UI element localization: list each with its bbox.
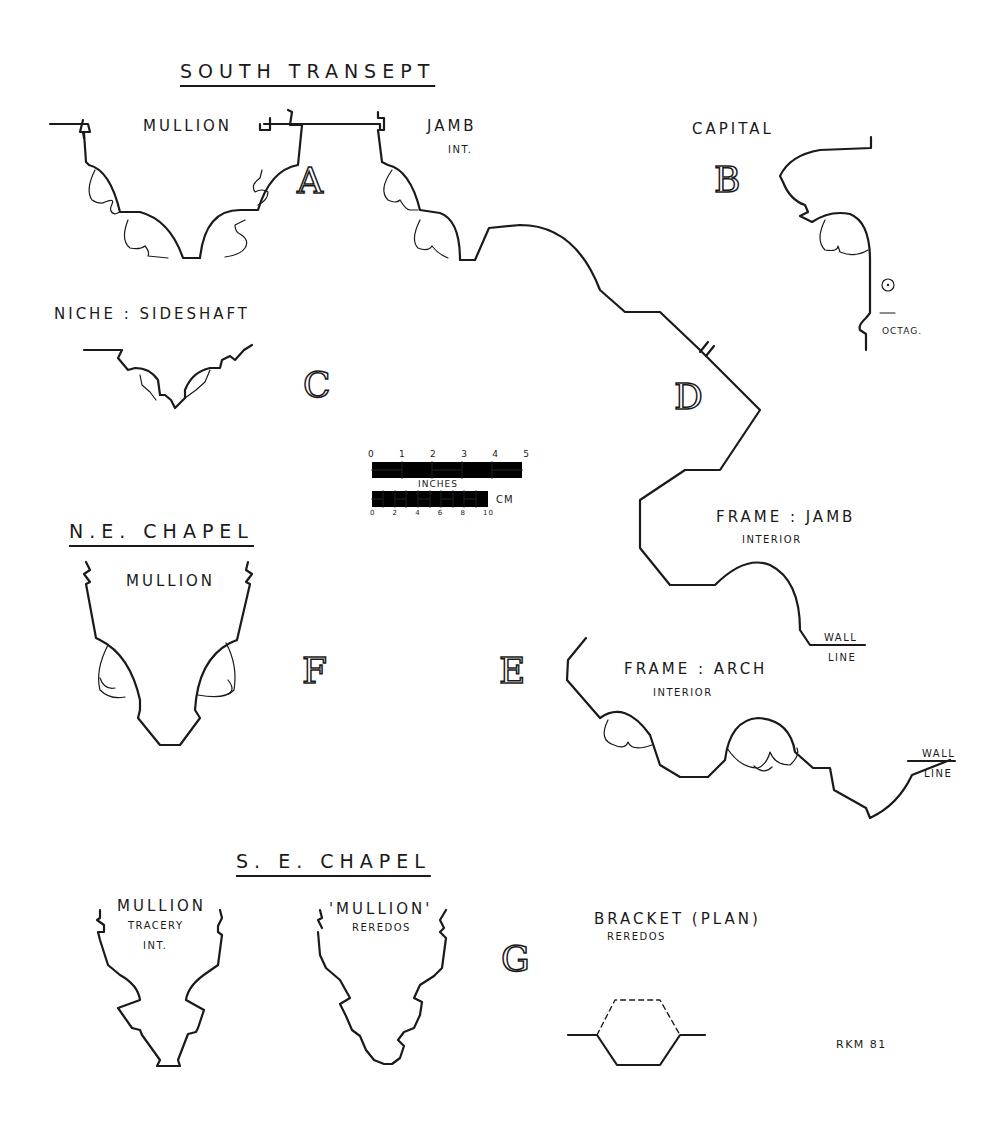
- label-jamb: JAMB: [427, 117, 477, 135]
- inch-tick: 0: [368, 449, 375, 459]
- inch-tick: 1: [399, 449, 406, 459]
- profile-b-capital: [780, 137, 895, 350]
- label-tracery: TRACERY: [128, 920, 184, 931]
- scale-inch-ticks: 0 1 2 3 4 5: [368, 449, 530, 459]
- letter-f: F: [302, 650, 327, 691]
- inch-tick: 5: [523, 449, 530, 459]
- profile-a-wall: [260, 112, 384, 130]
- letter-e: E: [499, 650, 525, 691]
- letter-c: C: [303, 364, 331, 405]
- label-frame-arch: FRAME : ARCH: [624, 660, 767, 678]
- label-reredos: REREDOS: [352, 922, 411, 933]
- signature: RKM 81: [836, 1038, 887, 1051]
- label-mullion-f: MULLION: [126, 572, 215, 590]
- scale-cm-ticks: 0 2 4 6 8 10: [370, 509, 494, 517]
- label-capital: CAPITAL: [692, 120, 774, 138]
- letter-b: B: [714, 159, 740, 200]
- profile-bracket-plan: [568, 1000, 705, 1065]
- label-jamb-int: INT.: [448, 144, 473, 155]
- label-line-1: LINE: [828, 652, 856, 663]
- label-bracket-plan: BRACKET (PLAN): [594, 910, 761, 928]
- profile-g-mullion-reredos: [318, 910, 446, 1064]
- label-frame-arch-interior: INTERIOR: [653, 687, 713, 698]
- label-line-2: LINE: [924, 768, 952, 779]
- scale-inch-unit: INCHES: [418, 479, 458, 489]
- label-wall-1: WALL: [824, 632, 857, 643]
- letter-g: G: [501, 938, 530, 979]
- cm-tick: 4: [415, 509, 420, 517]
- cm-tick: 6: [438, 509, 443, 517]
- letter-d: D: [674, 376, 703, 417]
- label-bracket-reredos: REREDOS: [607, 931, 666, 942]
- heading-south-transept: SOUTH TRANSEPT: [180, 60, 435, 82]
- drawing-sheet: SOUTH TRANSEPT N.E. CHAPEL S. E. CHAPEL …: [0, 0, 1007, 1133]
- label-mullion-g1: MULLION: [117, 897, 206, 915]
- label-frame-jamb-interior: INTERIOR: [742, 534, 802, 545]
- letter-a: A: [297, 160, 323, 201]
- inch-tick: 4: [492, 449, 499, 459]
- inch-tick: 3: [461, 449, 468, 459]
- profile-a-jamb: [378, 130, 865, 645]
- label-frame-jamb: FRAME : JAMB: [716, 508, 855, 526]
- label-wall-2: WALL: [922, 748, 955, 759]
- label-tracery-int: INT.: [143, 940, 168, 951]
- cm-tick: 10: [483, 509, 494, 517]
- label-mullion-g2: 'MULLION': [329, 900, 432, 918]
- inch-tick: 2: [430, 449, 437, 459]
- label-niche-sideshaft: NICHE : SIDESHAFT: [54, 305, 250, 323]
- cm-tick: 2: [393, 509, 398, 517]
- profile-c-niche: [84, 345, 252, 408]
- heading-ne-chapel: N.E. CHAPEL: [69, 520, 254, 542]
- profile-g-mullion-tracery: [97, 910, 222, 1066]
- label-octag: OCTAG.: [882, 326, 922, 336]
- label-mullion-a: MULLION: [143, 117, 232, 135]
- cm-tick: 8: [460, 509, 465, 517]
- cm-tick: 0: [370, 509, 375, 517]
- heading-se-chapel: S. E. CHAPEL: [236, 850, 431, 872]
- scale-cm-unit: CM: [496, 494, 514, 505]
